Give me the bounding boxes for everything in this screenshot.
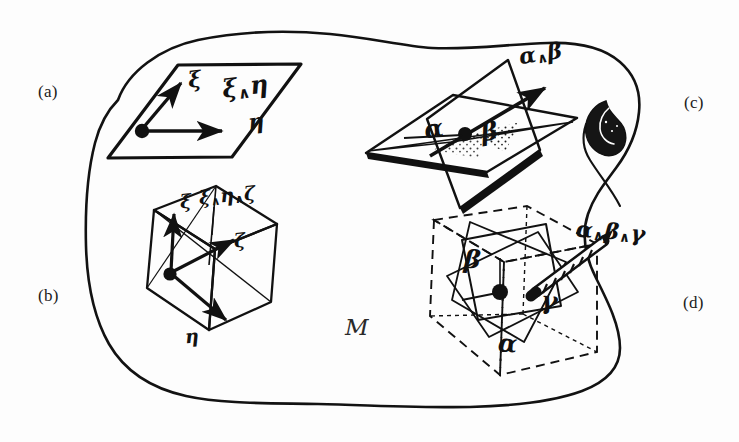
panel-index-b: (b) bbox=[38, 286, 59, 306]
manifold-label: M bbox=[345, 314, 369, 340]
bivector-lhs: ξ bbox=[220, 73, 238, 104]
panel-a-label-eta: η bbox=[247, 109, 266, 133]
trivector-mid: η bbox=[219, 183, 235, 206]
panel-index-c: (c) bbox=[684, 93, 704, 113]
two-form-lhs: α bbox=[517, 41, 538, 69]
trivector-rhs: ζ bbox=[243, 182, 256, 205]
three-form-rhs: γ bbox=[630, 219, 646, 246]
three-form-lhs: α bbox=[575, 216, 594, 243]
panel-a-label-bivector: ξ∧η bbox=[221, 71, 270, 103]
panel-d-label-beta: β bbox=[463, 246, 481, 272]
panel-index-d: (d) bbox=[683, 293, 704, 313]
panel-b-label-zeta: ζ bbox=[233, 231, 246, 251]
panel-b-label-eta: η bbox=[184, 326, 199, 346]
panel-a-bivector bbox=[108, 64, 301, 158]
panel-b-label-xi: ξ bbox=[179, 192, 192, 212]
panel-d-label-alpha: α bbox=[497, 330, 518, 356]
panel-c-two-form bbox=[366, 60, 577, 214]
panel-a-label-xi: ξ bbox=[187, 67, 203, 90]
panel-index-a: (a) bbox=[38, 82, 58, 102]
panel-d-label-gamma: γ bbox=[540, 287, 558, 313]
panel-d-label-three-form: α∧β∧γ bbox=[575, 218, 646, 247]
panel-c-label-beta: β bbox=[479, 118, 499, 145]
manifold-figure: (a) (b) (c) (d) M ξ η ξ∧η ξ η ζ ξ∧η∧ζ α … bbox=[0, 0, 739, 442]
bivector-rhs: η bbox=[248, 69, 270, 100]
panel-c-label-alpha: α bbox=[422, 115, 445, 143]
